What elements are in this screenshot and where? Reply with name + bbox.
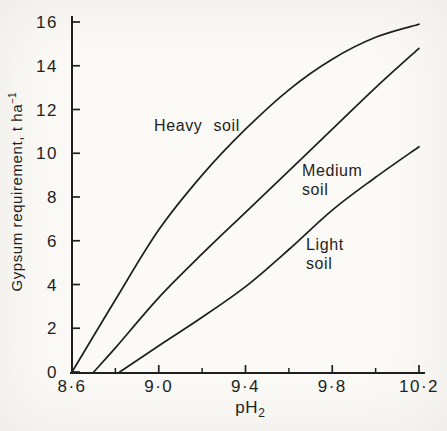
curve-heavy-soil xyxy=(72,24,419,372)
x-tick-label: 9·8 xyxy=(318,377,347,396)
x-tick-label: 8·6 xyxy=(57,377,86,396)
x-tick-label: 9·4 xyxy=(231,377,260,396)
y-tick-label: 8 xyxy=(47,188,58,207)
x-axis-title: pH2 xyxy=(200,398,300,422)
curve-light-soil xyxy=(120,147,419,372)
x-tick-label: 10·2 xyxy=(399,377,439,396)
y-axis-title-superscript: −1 xyxy=(7,92,18,103)
x-axis-title-text: pH xyxy=(235,398,258,417)
y-tick-label: 2 xyxy=(47,319,58,338)
series-label-light-soil: Lightsoil xyxy=(306,235,344,273)
series-label-medium-soil: Mediumsoil xyxy=(302,161,363,199)
y-axis-title-text: Gypsum requirement, t ha xyxy=(8,104,25,292)
curve-medium-soil xyxy=(94,48,419,372)
y-tick-label: 6 xyxy=(47,232,58,251)
y-tick-label: 10 xyxy=(36,144,58,163)
series-label-heavy-soil: Heavy soil xyxy=(154,116,240,135)
y-tick-label: 0 xyxy=(47,363,58,382)
x-tick-label: 9·0 xyxy=(144,377,173,396)
y-tick-label: 12 xyxy=(36,101,58,120)
y-tick-label: 4 xyxy=(47,276,58,295)
chart-canvas: 02468101214168·69·09·49·810·2 xyxy=(0,0,447,431)
y-tick-label: 14 xyxy=(36,57,58,76)
x-axis-title-subscript: 2 xyxy=(258,406,265,420)
y-tick-label: 16 xyxy=(36,13,58,32)
chart-figure: 02468101214168·69·09·49·810·2 Gypsum req… xyxy=(0,0,447,431)
y-axis-title: Gypsum requirement, t ha−1 xyxy=(7,42,27,342)
